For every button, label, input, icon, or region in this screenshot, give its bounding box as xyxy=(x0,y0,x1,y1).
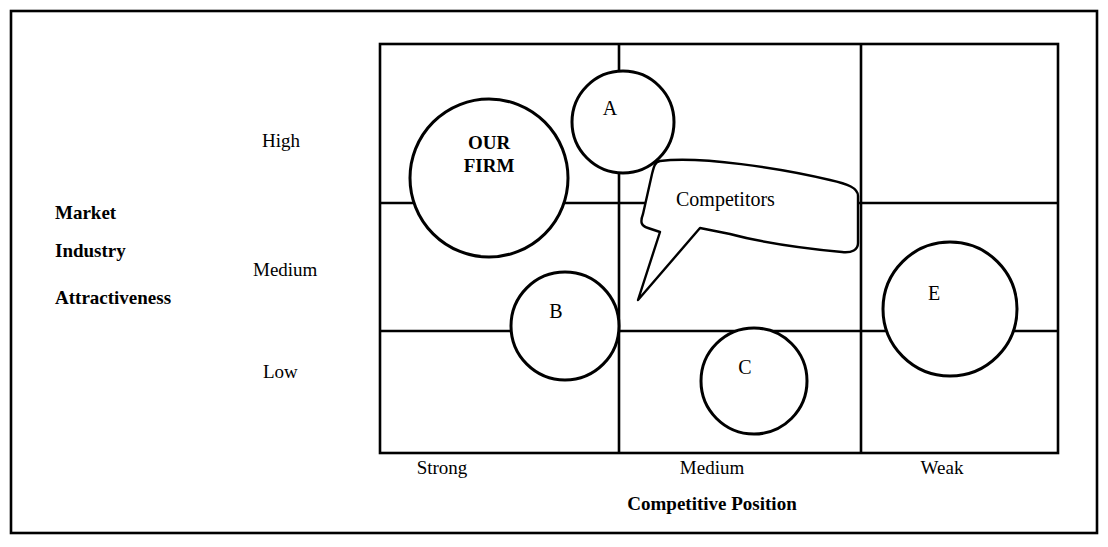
bubble-label-b: B xyxy=(549,301,562,321)
bubble-label-our-firm-line-1: OUR xyxy=(429,131,549,154)
bubble-c xyxy=(701,328,807,434)
bubble-our-firm xyxy=(410,99,568,257)
y-axis-title-line-3: Attractiveness xyxy=(55,288,171,307)
callout-label-competitors: Competitors xyxy=(676,189,775,209)
bubble-label-e: E xyxy=(928,283,940,303)
x-axis-tick-strong: Strong xyxy=(417,458,468,477)
bubble-a xyxy=(572,71,674,173)
y-axis-title-line-1: Market xyxy=(55,203,116,222)
matrix-figure: Market Industry Attractiveness High Medi… xyxy=(0,0,1108,547)
x-axis-title: Competitive Position xyxy=(627,494,796,513)
bubble-label-c: C xyxy=(738,357,751,377)
x-axis-tick-medium: Medium xyxy=(680,458,744,477)
y-axis-title-line-2: Industry xyxy=(55,241,126,260)
bubble-label-a: A xyxy=(603,98,617,118)
bubble-e xyxy=(883,242,1017,376)
y-axis-tick-low: Low xyxy=(263,362,298,381)
x-axis-tick-weak: Weak xyxy=(921,458,964,477)
bubble-label-our-firm: OUR FIRM xyxy=(429,131,549,177)
competitors-callout xyxy=(638,160,858,300)
y-axis-tick-high: High xyxy=(262,131,300,150)
bubble-label-our-firm-line-2: FIRM xyxy=(429,154,549,177)
y-axis-tick-medium: Medium xyxy=(253,260,317,279)
bubble-b xyxy=(511,272,619,380)
